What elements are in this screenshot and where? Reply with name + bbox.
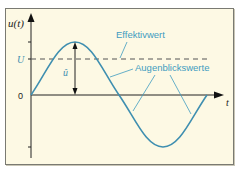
y-axis-label: u(t) — [8, 17, 24, 30]
origin-label: 0 — [18, 91, 23, 101]
instantaneous-annotation: Augenblickswerte — [135, 62, 209, 73]
amplitude-label: û — [63, 67, 68, 78]
amplitude-arrow-up-icon — [73, 42, 78, 49]
amplitude-arrow-down-icon — [73, 88, 78, 95]
x-axis-label: t — [226, 97, 229, 108]
rms-leader-line — [120, 42, 127, 58]
rms-level-label: U — [17, 54, 25, 65]
rms-annotation: Effektivwert — [116, 29, 165, 40]
sine-diagram: u(t) t 0 U û Effektivwert Augenblickswer… — [0, 0, 244, 171]
instant-leader-line-2 — [133, 75, 155, 111]
x-axis-arrow-icon — [214, 92, 224, 99]
y-axis-arrow-icon — [28, 13, 35, 22]
instant-leader-line-1 — [110, 69, 133, 77]
